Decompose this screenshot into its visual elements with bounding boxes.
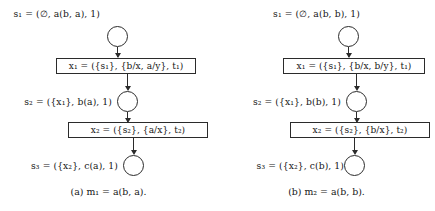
state-node-s2 bbox=[117, 91, 138, 112]
caption-panel-b: (b) m₂ = a(b, b). bbox=[218, 186, 435, 197]
state-node-s1 bbox=[107, 26, 128, 47]
state-node-s1 bbox=[338, 26, 359, 47]
transition-label-x1: x₁ = ({s₁}, {b/x, b/y}, t₁) bbox=[297, 62, 412, 71]
arrow-x2-to-s3-line bbox=[133, 138, 134, 150]
transition-label-x2: x₂ = ({s₂}, {a/x}, t₂) bbox=[91, 126, 185, 135]
state-label-s3: s₃ = ({x₂}, c(b), 1) bbox=[218, 161, 344, 170]
diagram-panel-b: s₁ = (∅, a(b, b), 1) x₁ = ({s₁}, {b/x, b… bbox=[218, 0, 435, 211]
transition-box-x2: x₂ = ({s₂}, {b/x}, t₂) bbox=[290, 122, 430, 138]
transition-box-x1: x₁ = ({s₁}, {b/x, b/y}, t₁) bbox=[283, 58, 425, 74]
state-node-s2 bbox=[346, 91, 367, 112]
transition-box-x1: x₁ = ({s₁}, {b/x, a/y}, t₁) bbox=[56, 58, 196, 74]
state-node-s3 bbox=[123, 155, 144, 176]
state-label-s2: s₂ = ({x₁}, b(a), 1) bbox=[0, 97, 112, 106]
state-node-s3 bbox=[344, 155, 365, 176]
transition-label-x2: x₂ = ({s₂}, {b/x}, t₂) bbox=[313, 126, 408, 135]
state-label-s1: s₁ = (∅, a(b, a), 1) bbox=[0, 9, 100, 18]
arrow-x2-to-s3-line bbox=[354, 138, 355, 150]
caption-panel-a: (a) m₁ = a(b, a). bbox=[0, 186, 217, 197]
state-label-s2: s₂ = ({x₁}, b(b), 1) bbox=[218, 97, 341, 106]
transition-label-x1: x₁ = ({s₁}, {b/x, a/y}, t₁) bbox=[69, 62, 184, 71]
arrow-x1-to-s2-line bbox=[356, 74, 357, 86]
arrow-x1-to-s2-line bbox=[127, 74, 128, 86]
state-label-s1: s₁ = (∅, a(b, b), 1) bbox=[218, 9, 360, 18]
diagram-panel-a: s₁ = (∅, a(b, a), 1) x₁ = ({s₁}, {b/x, a… bbox=[0, 0, 217, 211]
state-label-s3: s₃ = ({x₂}, c(a), 1) bbox=[0, 161, 118, 170]
figure-derivation-diagrams: s₁ = (∅, a(b, a), 1) x₁ = ({s₁}, {b/x, a… bbox=[0, 0, 435, 211]
transition-box-x2: x₂ = ({s₂}, {a/x}, t₂) bbox=[68, 122, 208, 138]
